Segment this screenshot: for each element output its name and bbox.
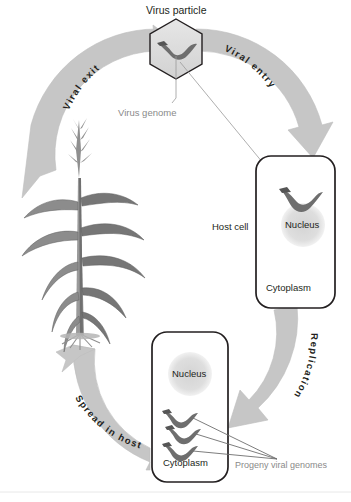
viral-entry-arrow [196, 29, 333, 158]
label-nucleus-top: Nucleus [285, 219, 319, 230]
label-progeny-viral-genomes: Progeny viral genomes [235, 460, 327, 470]
label-virus-genome: Virus genome [118, 107, 176, 118]
replication-arrow [228, 305, 298, 428]
label-cytoplasm-bottom: Cytoplasm [163, 457, 208, 468]
label-virus-particle: Virus particle [146, 4, 207, 16]
label-nucleus-bottom: Nucleus [172, 368, 206, 379]
label-cytoplasm-top: Cytoplasm [266, 282, 311, 293]
virus-infection-cycle-figure: Viral entry Viral exit Replication Sprea… [0, 0, 351, 502]
arrow-label-replication: Replication [292, 333, 321, 401]
label-host-cell: Host cell [212, 221, 248, 232]
diagram-canvas: Viral entry Viral exit Replication Sprea… [0, 0, 351, 502]
spread-in-host-arrow [56, 345, 150, 470]
